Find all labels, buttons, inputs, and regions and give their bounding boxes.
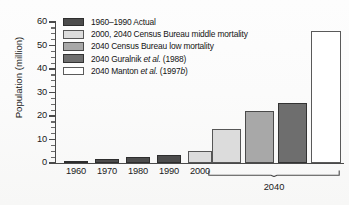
- bar-1990-3: [157, 155, 181, 163]
- bar-1980-2: [126, 157, 150, 163]
- y-axis-minor-tick: [51, 63, 55, 64]
- y-axis-tick: [49, 21, 55, 22]
- legend-label: 2000, 2040 Census Bureau middle mortalit…: [91, 29, 248, 39]
- y-axis-tick-label: 20: [23, 110, 47, 120]
- y-axis-minor-tick: [51, 51, 55, 52]
- y-axis-minor-tick: [51, 74, 55, 75]
- y-axis-minor-tick: [51, 133, 55, 134]
- y-axis-minor-tick: [51, 39, 55, 40]
- bar-2040-7: [278, 103, 307, 163]
- legend-label: 2040 Manton et al. (1997b): [91, 66, 188, 76]
- legend-swatch-white: [63, 67, 84, 76]
- bar-2040-5: [212, 129, 241, 163]
- y-axis-minor-tick: [51, 86, 55, 87]
- y-axis-minor-tick: [51, 157, 55, 158]
- legend-swatch-light: [63, 30, 84, 39]
- y-axis-tick-label: 30: [23, 87, 47, 97]
- y-axis-tick-label: 60: [23, 16, 47, 26]
- bar-2040-6: [245, 111, 274, 163]
- y-axis-tick: [49, 45, 55, 46]
- y-axis-tick-label: 50: [23, 40, 47, 50]
- x-axis-label-1980: 1980: [122, 166, 154, 176]
- y-axis-minor-tick: [51, 27, 55, 28]
- y-axis-title: Population (million): [13, 8, 24, 148]
- x-axis-group-label: 2040: [208, 182, 340, 192]
- y-axis-tick-label: 10: [23, 134, 47, 144]
- y-axis-minor-tick: [51, 151, 55, 152]
- legend-item-2: 2040 Census Bureau low mortality: [63, 40, 313, 52]
- chart-legend: 1960–1990 Actual2000, 2040 Census Bureau…: [63, 16, 313, 77]
- legend-swatch-darkmid: [63, 54, 84, 63]
- y-axis-minor-tick: [51, 98, 55, 99]
- y-axis-tick-label: 40: [23, 63, 47, 73]
- y-axis-tick: [49, 68, 55, 69]
- legend-item-3: 2040 Guralnik et al. (1988): [63, 53, 313, 65]
- y-axis-minor-tick: [51, 104, 55, 105]
- x-axis-label-1970: 1970: [91, 166, 123, 176]
- legend-item-4: 2040 Manton et al. (1997b): [63, 65, 313, 77]
- y-axis-minor-tick: [51, 110, 55, 111]
- bar-2040-8: [311, 31, 341, 163]
- legend-label: 2040 Guralnik et al. (1988): [91, 54, 186, 64]
- y-axis-tick-label: 0: [23, 157, 47, 167]
- bar-2000-4: [188, 151, 212, 163]
- x-axis-line: [55, 163, 344, 164]
- x-axis-label-1990: 1990: [153, 166, 185, 176]
- x-axis-label-1960: 1960: [60, 166, 92, 176]
- legend-item-1: 2000, 2040 Census Bureau middle mortalit…: [63, 28, 313, 40]
- legend-swatch-dark: [63, 18, 84, 27]
- legend-swatch-medium: [63, 42, 84, 51]
- y-axis-minor-tick: [51, 127, 55, 128]
- y-axis-minor-tick: [51, 33, 55, 34]
- figure-canvas: Population (million) 0102030405060 19601…: [0, 0, 349, 205]
- y-axis-minor-tick: [51, 145, 55, 146]
- bar-1970-1: [95, 159, 119, 163]
- y-axis-minor-tick: [51, 57, 55, 58]
- y-axis-minor-tick: [51, 80, 55, 81]
- bar-1960-0: [64, 161, 88, 163]
- y-axis-tick: [49, 92, 55, 93]
- legend-item-0: 1960–1990 Actual: [63, 16, 313, 28]
- y-axis-minor-tick: [51, 121, 55, 122]
- legend-label: 2040 Census Bureau low mortality: [91, 41, 214, 51]
- group-bracket-icon: [208, 170, 340, 177]
- y-axis-tick: [49, 115, 55, 116]
- legend-label: 1960–1990 Actual: [91, 17, 156, 27]
- y-axis-tick: [49, 139, 55, 140]
